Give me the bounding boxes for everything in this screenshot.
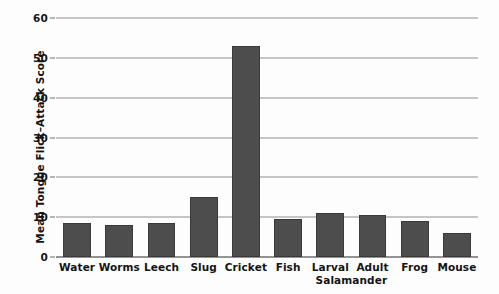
y-axis-tick-mark	[50, 18, 55, 19]
y-axis-tick-mark	[50, 257, 55, 258]
x-axis-tick-label: Water	[59, 261, 95, 273]
y-axis-tick-label: 20	[26, 171, 48, 183]
x-axis-tick-label: Slug	[190, 261, 217, 273]
x-axis-tick-label: Worms	[99, 261, 140, 273]
bar	[63, 223, 91, 257]
x-axis-tick-label: Leech	[144, 261, 179, 273]
x-axis-tick-label: Mouse	[437, 261, 476, 273]
y-axis-tick-label: 60	[26, 12, 48, 24]
x-axis-tick-label: Larval	[312, 261, 349, 273]
bar	[105, 225, 133, 257]
bar-chart-figure: Mean Tongue Flick–Attack Score 010203040…	[0, 0, 499, 294]
y-axis-tick-label: 30	[26, 132, 48, 144]
bar	[401, 221, 429, 257]
bar	[232, 46, 260, 257]
bar	[316, 213, 344, 257]
bar-series	[56, 18, 478, 257]
y-axis-tick-label: 10	[26, 211, 48, 223]
plot-area	[56, 18, 478, 257]
x-axis-tick-label: Fish	[276, 261, 301, 273]
y-axis-tick-label: 40	[26, 92, 48, 104]
x-axis-tick-label: Frog	[401, 261, 428, 273]
x-axis-tick-labels: WaterWormsLeechSlugCricketFishLarvalAdul…	[56, 261, 478, 294]
y-axis-tick-label: 50	[26, 52, 48, 64]
bar	[359, 215, 387, 257]
x-axis-group-label: Salamander	[316, 274, 388, 286]
y-axis-tick-mark	[50, 177, 55, 178]
bar	[148, 223, 176, 257]
y-axis-tick-mark	[50, 137, 55, 138]
y-axis-tick-label: 0	[26, 251, 48, 263]
y-axis-tick-labels: 0102030405060	[26, 0, 48, 294]
x-axis-tick-label: Adult	[356, 261, 388, 273]
bar	[274, 219, 302, 257]
y-axis-tick-mark	[50, 217, 55, 218]
bar	[190, 197, 218, 257]
y-axis-tick-mark	[50, 57, 55, 58]
y-axis-tick-mark	[50, 97, 55, 98]
bar	[443, 233, 471, 257]
x-axis-tick-label: Cricket	[225, 261, 267, 273]
